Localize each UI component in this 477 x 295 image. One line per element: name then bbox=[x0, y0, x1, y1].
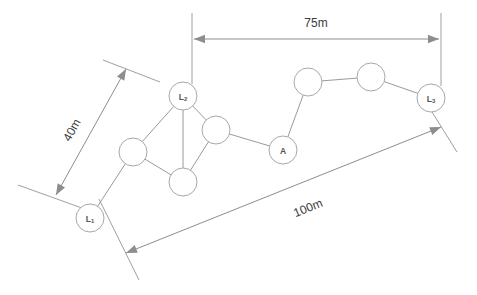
network-edges-group bbox=[98, 78, 418, 206]
edge-n2-n3 bbox=[191, 142, 209, 170]
node-n1[interactable] bbox=[119, 138, 147, 166]
node-n5[interactable] bbox=[357, 63, 385, 91]
arrow-head-start-100m bbox=[126, 245, 138, 253]
node-circle-n5[interactable] bbox=[357, 63, 385, 91]
diagram-canvas: L1L2L3A 75m40m100m bbox=[0, 0, 477, 295]
edge-n3-A bbox=[229, 134, 269, 146]
edge-L2-n3 bbox=[193, 106, 206, 120]
dimension-label-40m: 40m bbox=[60, 116, 84, 143]
node-circle-n3[interactable] bbox=[202, 116, 230, 144]
node-n2[interactable] bbox=[169, 168, 197, 196]
node-n4[interactable] bbox=[294, 68, 322, 96]
extension-line-40m-1 bbox=[103, 60, 160, 82]
node-circle-n1[interactable] bbox=[119, 138, 147, 166]
edge-A-n4 bbox=[288, 95, 303, 137]
node-L2[interactable]: L2 bbox=[169, 82, 197, 110]
arrow-head-end-40m bbox=[117, 69, 126, 81]
node-A[interactable]: A bbox=[269, 136, 297, 164]
edge-n4-n5 bbox=[322, 78, 357, 81]
arrow-head-end-75m bbox=[428, 35, 439, 43]
node-L3[interactable]: L3 bbox=[417, 84, 445, 112]
extension-line-100m-0 bbox=[99, 199, 139, 280]
diagram-svg: L1L2L3A 75m40m100m bbox=[0, 0, 477, 295]
edge-n1-L2 bbox=[142, 106, 173, 141]
dimension-label-75m: 75m bbox=[304, 16, 327, 30]
edge-L1-n1 bbox=[98, 164, 126, 207]
node-L1[interactable]: L1 bbox=[76, 204, 104, 232]
node-circle-n2[interactable] bbox=[169, 168, 197, 196]
arrow-head-start-75m bbox=[194, 35, 205, 43]
arrow-head-start-40m bbox=[56, 183, 65, 195]
dimension-label-100m: 100m bbox=[291, 196, 324, 220]
node-label-A: A bbox=[280, 146, 286, 156]
edge-n5-L3 bbox=[384, 82, 418, 94]
node-n3[interactable] bbox=[202, 116, 230, 144]
arrow-head-end-100m bbox=[429, 127, 441, 135]
node-circle-n4[interactable] bbox=[294, 68, 322, 96]
dimension-lines-group bbox=[56, 35, 441, 253]
edge-n1-n2 bbox=[145, 159, 171, 175]
